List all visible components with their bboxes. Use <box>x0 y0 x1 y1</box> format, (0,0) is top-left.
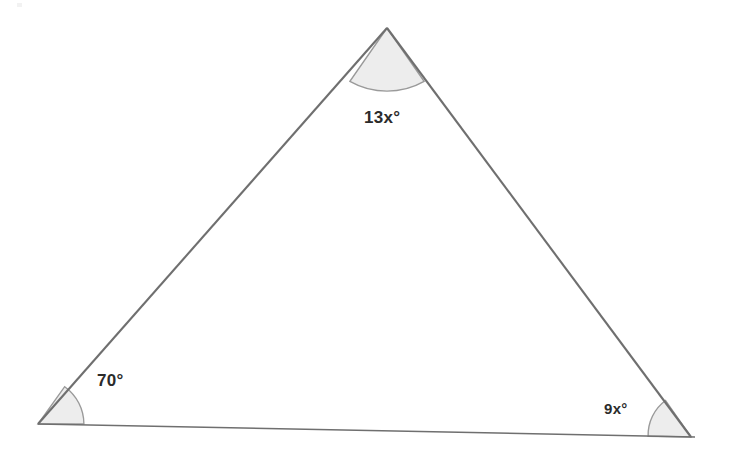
right-angle-arc <box>648 401 691 438</box>
triangle-right-side <box>387 28 691 437</box>
left-angle-label: 70° <box>97 371 124 391</box>
triangle-base-side <box>38 424 695 437</box>
apex-angle-label: 13x° <box>364 108 400 128</box>
diagram-canvas: 13x° 70° 9x° <box>0 0 740 460</box>
left-angle-arc <box>38 387 84 424</box>
triangle-left-side <box>38 28 387 424</box>
right-angle-label: 9x° <box>604 400 628 417</box>
apex-angle-arc <box>350 28 424 91</box>
triangle-figure <box>0 0 740 460</box>
